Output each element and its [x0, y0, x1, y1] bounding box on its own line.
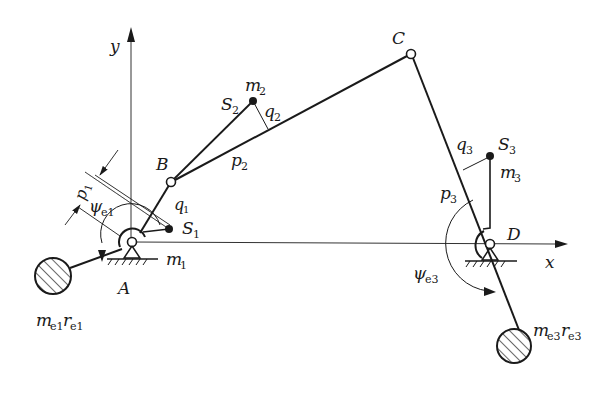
ground-hatch-D	[466, 261, 505, 267]
link-AB	[140, 182, 171, 233]
y-axis-label: y	[109, 36, 120, 56]
svg-text:1: 1	[183, 204, 189, 215]
link-BC	[175, 56, 407, 180]
y-axis-arrow-icon	[127, 27, 135, 42]
counterweight-left-label: m e1 r e1	[36, 310, 84, 333]
mass-m3-label: m 3	[500, 162, 521, 185]
svg-text:1: 1	[180, 259, 187, 272]
joint-B	[167, 178, 176, 187]
svg-text:S: S	[182, 218, 194, 238]
joint-A-label: A	[116, 278, 130, 298]
psi-e3-angle-arc	[446, 200, 488, 291]
svg-text:3: 3	[450, 193, 457, 206]
mass-m1-label: m 1	[166, 249, 187, 272]
p1-arrow-upper	[100, 150, 118, 175]
angle-psi-e1-label: ψ e1	[89, 196, 115, 219]
link3-com-offset	[483, 157, 490, 229]
support-A	[124, 246, 140, 258]
svg-text:e3: e3	[547, 330, 561, 343]
joint-D	[486, 240, 495, 249]
link-CD	[413, 58, 519, 330]
dimension-q1-label: q 1	[174, 195, 189, 215]
svg-text:3: 3	[509, 144, 516, 157]
svg-text:2: 2	[259, 85, 266, 98]
joint-C	[407, 50, 416, 59]
psi-e3-arrow-icon	[484, 287, 496, 296]
x-axis-arrow-icon	[555, 240, 568, 248]
svg-text:e3: e3	[425, 273, 439, 286]
joint-D-label: D	[506, 224, 521, 244]
four-bar-linkage-diagram: y x A B C D m 1 S 1 S 2 m 2 S 3 m 3 p 1 …	[0, 0, 595, 393]
joint-A	[128, 238, 137, 247]
ground-hatch-A	[108, 259, 147, 265]
x-axis-label: x	[545, 252, 555, 272]
joint-B-label: B	[155, 154, 169, 174]
svg-text:e1: e1	[50, 320, 64, 333]
dimension-q2-label: q 2	[264, 101, 281, 124]
svg-text:3: 3	[514, 172, 521, 185]
q3-perpendicular	[463, 157, 489, 170]
counterweight-right-label: m e3 r e3	[533, 320, 582, 343]
p1-arrow-lower	[65, 205, 80, 225]
svg-text:2: 2	[274, 111, 281, 124]
dimension-p3-label: p 3	[440, 183, 457, 206]
dimension-q3-label: q 3	[456, 134, 473, 157]
joint-C-label: C	[392, 28, 405, 48]
mass-m2-label: m 2	[245, 75, 266, 98]
svg-text:2: 2	[241, 160, 248, 173]
svg-text:e1: e1	[101, 206, 115, 219]
dimension-p2-label: p 2	[231, 150, 248, 173]
angle-psi-e3-label: ψ e3	[413, 263, 439, 286]
com-S3-label: S 3	[498, 134, 516, 157]
svg-text:S: S	[498, 134, 510, 154]
svg-text:e3: e3	[568, 330, 582, 343]
com-S1-label: S 1	[182, 218, 200, 241]
svg-text:1: 1	[193, 228, 200, 241]
counterweight-left	[35, 258, 71, 294]
svg-text:e1: e1	[70, 320, 84, 333]
com-S1	[165, 225, 173, 233]
com-S2-label: S 2	[221, 94, 239, 117]
svg-text:2: 2	[232, 104, 239, 117]
counterweight-right	[497, 329, 531, 363]
com-S2	[249, 97, 257, 105]
com-S3	[486, 152, 494, 160]
svg-text:3: 3	[466, 144, 473, 157]
svg-text:S: S	[221, 94, 233, 114]
